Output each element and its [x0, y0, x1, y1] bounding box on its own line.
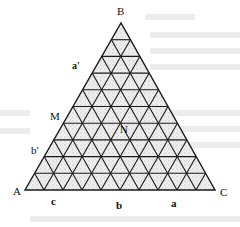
side-label-a: a: [171, 198, 177, 209]
side-label-c: c: [51, 196, 56, 207]
grid-cell: [111, 23, 130, 40]
vertex-label-a: A: [13, 186, 21, 197]
side-label-b-prime: b': [31, 145, 38, 156]
vertex-label-b: B: [117, 6, 124, 17]
point-label-n: N: [120, 124, 128, 135]
ternary-grid-diagram: [0, 0, 240, 227]
side-label-b: b: [116, 200, 122, 211]
side-label-a-prime: a': [72, 61, 80, 71]
point-label-m: M: [50, 111, 60, 122]
vertex-label-c: C: [220, 187, 227, 198]
